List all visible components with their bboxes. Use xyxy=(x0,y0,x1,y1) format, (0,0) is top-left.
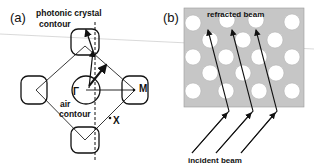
contour-left xyxy=(21,76,47,104)
brillouin-zone-diamond xyxy=(36,46,135,140)
x-point-dot xyxy=(109,117,112,120)
m-label: M xyxy=(139,83,147,94)
x-label: X xyxy=(113,115,120,126)
air-contour-label: contour xyxy=(59,109,91,119)
incident-arrows xyxy=(192,113,275,153)
incident-beam-label: incident beam xyxy=(188,156,242,165)
contour-label: contour xyxy=(39,19,71,29)
air-label: air xyxy=(60,99,71,109)
refracted-beam-label: refracted beam xyxy=(207,10,264,19)
panel-a: (a) photonic crystal contour Γ M X air c… xyxy=(10,8,148,162)
gamma-label: Γ xyxy=(73,86,79,97)
panel-a-label: (a) xyxy=(10,10,26,25)
panel-b: (b) refracte xyxy=(163,8,304,165)
photonic-crystal-label: photonic crystal xyxy=(36,8,102,18)
m-point-dot xyxy=(133,89,136,92)
panel-b-label: (b) xyxy=(163,10,179,25)
figure-canvas: (a) photonic crystal contour Γ M X air c… xyxy=(0,0,314,166)
